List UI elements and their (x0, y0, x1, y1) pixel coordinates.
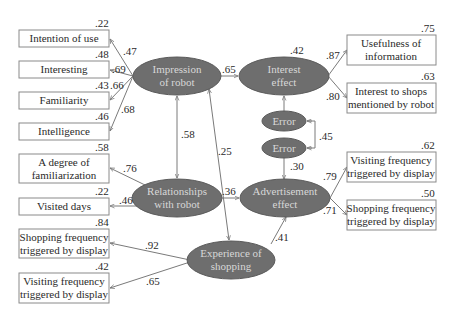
r2-label: .84 (95, 216, 109, 228)
loading-visiting-freq-right: .79 (323, 170, 337, 182)
svg-text:Visiting frequency: Visiting frequency (350, 154, 432, 166)
right-indicators: Usefulness of information .75 Interest t… (347, 22, 436, 230)
svg-text:Advertisement: Advertisement (253, 185, 318, 197)
loading-shopping-freq-right: .71 (323, 204, 337, 216)
svg-text:effect: effect (272, 76, 297, 88)
svg-text:Shopping frequency: Shopping frequency (20, 231, 109, 243)
path-impression-interest: .65 (222, 63, 236, 75)
indicator-interest-to-shops: Interest to shops mentioned by robot .63 (347, 70, 436, 113)
indicator-intelligence: Intelligence .46 (19, 110, 109, 140)
svg-text:Familiarity: Familiarity (40, 94, 89, 106)
loading-intention: .47 (123, 45, 137, 57)
r2-label: .42 (95, 260, 109, 272)
loading-intelligence: .68 (121, 103, 135, 115)
svg-text:Usefulness of: Usefulness of (361, 37, 422, 49)
svg-text:mentioned by robot: mentioned by robot (348, 98, 434, 110)
latent-interest-effect: Interest effect .42 (239, 44, 329, 95)
cov-label-impression-relationships: .58 (181, 128, 195, 140)
loading-usefulness: .87 (326, 49, 340, 61)
r2-label: .42 (290, 44, 304, 56)
path-relationships-advertisement: .36 (222, 185, 236, 197)
r2-label: .63 (421, 70, 435, 82)
svg-text:Relationships: Relationships (147, 185, 207, 197)
svg-text:Experience of: Experience of (200, 247, 262, 259)
svg-text:Intention of use: Intention of use (29, 32, 98, 44)
indicator-familiarization: A degree of familiarization .58 (19, 141, 109, 183)
loading-visited-days: .46 (119, 194, 133, 206)
indicator-familiarity: Familiarity .43 (19, 79, 109, 109)
r2-label: .43 (95, 79, 109, 91)
loading-familiarity: .66 (110, 79, 124, 91)
loading-shopping-freq-left: .92 (145, 239, 159, 251)
path-experience-advertisement: .41 (275, 231, 289, 243)
svg-text:of robot: of robot (159, 76, 194, 88)
cov-label-errors: .45 (319, 130, 333, 142)
loading-familiarization: .76 (123, 162, 137, 174)
latent-advertisement-effect: Advertisement effect (240, 179, 330, 217)
latent-impression-of-robot: Impression of robot (133, 57, 221, 95)
latent-experience-of-shopping: Experience of shopping (187, 241, 275, 279)
cov-label-impression-experience: .25 (218, 145, 232, 157)
svg-text:Impression: Impression (153, 63, 202, 75)
sem-diagram: Intention of use .22 Interesting .48 Fam… (0, 0, 455, 319)
svg-text:Error: Error (272, 115, 296, 127)
indicator-shopping-frequency-right: Shopping frequency triggered by display … (347, 187, 436, 230)
svg-text:shopping: shopping (211, 260, 252, 272)
indicator-visited-days: Visited days .22 (19, 185, 109, 215)
svg-text:with robot: with robot (154, 198, 200, 210)
svg-text:Interesting: Interesting (40, 63, 88, 75)
path-error2-advertisement: .30 (290, 160, 304, 172)
svg-text:familiarization: familiarization (32, 169, 97, 181)
loading-visiting-freq-left: .65 (146, 275, 160, 287)
svg-text:A degree of: A degree of (38, 156, 90, 168)
svg-text:Visiting frequency: Visiting frequency (23, 275, 105, 287)
error-term-1: Error (262, 111, 306, 131)
r2-label: .75 (421, 22, 435, 34)
svg-text:Error: Error (272, 142, 296, 154)
r2-label: .22 (95, 17, 109, 29)
indicator-visiting-frequency-right: Visiting frequency triggered by display … (347, 139, 436, 182)
svg-text:triggered by display: triggered by display (347, 215, 435, 227)
indicator-intention-of-use: Intention of use .22 (19, 17, 109, 47)
loading-interest-shops: .80 (326, 90, 340, 102)
svg-text:Intelligence: Intelligence (38, 125, 90, 137)
r2-label: .62 (421, 139, 435, 151)
latent-relationships-with-robot: Relationships with robot (132, 179, 222, 217)
r2-label: .50 (421, 187, 435, 199)
svg-text:Interest: Interest (268, 63, 301, 75)
svg-text:Shopping frequency: Shopping frequency (347, 202, 436, 214)
cov-error1-error2 (307, 121, 315, 148)
indicator-interesting: Interesting .48 (19, 48, 109, 78)
svg-text:Interest to shops: Interest to shops (355, 85, 427, 97)
indicator-visiting-frequency-left: Visiting frequency triggered by display … (19, 260, 109, 303)
svg-text:triggered by display: triggered by display (20, 244, 108, 256)
indicator-usefulness: Usefulness of information .75 (347, 22, 436, 65)
error-term-2: Error (262, 138, 306, 158)
left-indicators: Intention of use .22 Interesting .48 Fam… (19, 17, 109, 303)
loading-interesting: .69 (112, 63, 126, 75)
svg-text:Visited days: Visited days (37, 200, 91, 212)
svg-text:effect: effect (273, 198, 298, 210)
r2-label: .58 (95, 141, 109, 153)
svg-text:information: information (365, 50, 417, 62)
svg-text:triggered by display: triggered by display (347, 167, 435, 179)
r2-label: .46 (95, 110, 109, 122)
cov-impression-experience (209, 89, 229, 240)
r2-label: .22 (95, 185, 109, 197)
svg-text:triggered by display: triggered by display (20, 288, 108, 300)
indicator-shopping-frequency-left: Shopping frequency triggered by display … (19, 216, 109, 258)
r2-label: .48 (95, 48, 109, 60)
